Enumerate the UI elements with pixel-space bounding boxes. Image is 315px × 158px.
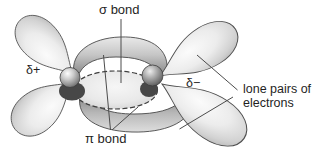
delta-minus-label: δ− bbox=[186, 76, 200, 90]
sigma-bond-label: σ bond bbox=[99, 3, 140, 18]
orbital-illustration bbox=[0, 0, 315, 158]
lone-pairs-label: lone pairs of electrons bbox=[243, 82, 315, 110]
left-atom-sphere bbox=[60, 68, 80, 88]
orbital-bond-diagram: σ bond π bond δ+ δ− lone pairs of electr… bbox=[0, 0, 315, 158]
pi-bond-label: π bond bbox=[85, 132, 127, 147]
delta-plus-label: δ+ bbox=[26, 63, 40, 77]
right-atom-sphere bbox=[142, 65, 163, 86]
